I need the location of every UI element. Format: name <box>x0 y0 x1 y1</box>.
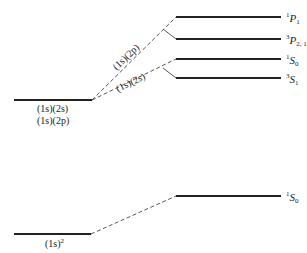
term-1P1: 1P1 <box>286 12 300 26</box>
term-1S0-excited: 1S0 <box>286 54 299 68</box>
term-1S0-ground: 1S0 <box>286 191 299 205</box>
term-3P210: 3P2, 1, 0 <box>286 34 307 48</box>
ground-config-label: (1s)2 <box>45 238 64 249</box>
term-3S1: 3S1 <box>286 73 299 87</box>
energy-level-diagram <box>0 0 307 253</box>
excited-config-label-2p: (1s)(2p) <box>37 116 69 126</box>
excited-config-label-2s: (1s)(2s) <box>37 104 68 114</box>
split-3P-connector <box>163 29 176 39</box>
split-3S-connector <box>163 68 176 78</box>
ground-dashed-line <box>91 196 176 234</box>
